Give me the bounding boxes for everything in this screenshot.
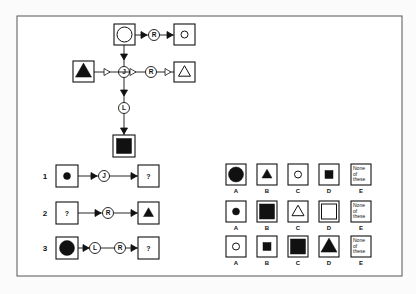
key-left-box xyxy=(73,61,94,82)
answer-label: A xyxy=(234,188,239,194)
question-2-output-box xyxy=(138,202,159,224)
key-top-right-box xyxy=(174,24,195,45)
operator-letter: R xyxy=(118,244,123,251)
operator-letter: R xyxy=(106,209,111,216)
answer-label: E xyxy=(359,188,363,194)
question-mark: ? xyxy=(146,173,150,180)
circle-outline-small-icon xyxy=(233,243,240,250)
none-of-these-text: these xyxy=(353,176,365,182)
square-outline-large-icon xyxy=(322,204,337,219)
circle-solid-large-icon xyxy=(229,167,244,182)
question-number-1: 1 xyxy=(43,172,48,181)
answer-label: B xyxy=(265,188,270,194)
question-number-3: 3 xyxy=(43,244,48,253)
operator-middle-r: R xyxy=(146,67,157,78)
operator-letter: L xyxy=(122,104,126,111)
answer-label: C xyxy=(296,260,301,266)
question-1-input-box xyxy=(56,165,78,187)
question-mark: ? xyxy=(65,210,69,217)
square-solid-large-icon xyxy=(260,204,275,219)
none-of-these-text: these xyxy=(353,248,365,254)
square-solid-small-icon xyxy=(325,171,333,179)
operator-letter: R xyxy=(152,31,157,38)
operator-top-r: R xyxy=(149,30,160,41)
question-number-2: 2 xyxy=(43,209,48,218)
operator-letter: L xyxy=(93,244,97,251)
question-1-output-box: ? xyxy=(138,165,159,187)
none-of-these-text: these xyxy=(353,213,365,219)
circle-solid-small-icon xyxy=(233,208,240,215)
answer-label: D xyxy=(327,260,332,266)
square-solid-small-icon xyxy=(263,243,271,251)
circle-outline-small-icon xyxy=(181,31,188,38)
question-mark: ? xyxy=(146,245,150,252)
answer-label: A xyxy=(234,260,239,266)
answer-label: E xyxy=(359,225,363,231)
operator-letter: J xyxy=(102,172,106,179)
answer-label: D xyxy=(327,188,332,194)
circle-outline-large-icon xyxy=(117,27,132,42)
answer-label: D xyxy=(327,225,332,231)
question-operator-l: L xyxy=(90,243,101,254)
operator-letter: R xyxy=(149,68,154,75)
question-operator-r: R xyxy=(103,208,114,219)
question-2-input-box: ? xyxy=(56,202,78,224)
square-solid-large-icon xyxy=(291,239,306,254)
answer-label: A xyxy=(234,225,239,231)
key-bottom-box xyxy=(113,135,135,157)
square-solid-large-icon xyxy=(117,139,132,154)
operator-vertical-l: L xyxy=(119,103,130,114)
answer-label: C xyxy=(296,188,301,194)
circle-outline-small-icon xyxy=(295,171,302,178)
puzzle-figure: RJLR1J?2R?3LR?ABCDNoneoftheseEABCDNoneof… xyxy=(0,0,416,294)
circle-solid-small-icon xyxy=(64,173,71,180)
key-right-box xyxy=(174,62,195,82)
answer-label: B xyxy=(265,260,270,266)
answer-label: B xyxy=(265,225,270,231)
circle-solid-large-icon xyxy=(60,241,75,256)
question-operator-r: R xyxy=(115,243,126,254)
answer-label: C xyxy=(296,225,301,231)
answer-label: E xyxy=(359,260,363,266)
question-operator-j: J xyxy=(99,171,110,182)
key-top-left-box xyxy=(114,24,135,45)
question-3-output-box: ? xyxy=(138,237,159,259)
question-3-input-box xyxy=(56,237,78,259)
